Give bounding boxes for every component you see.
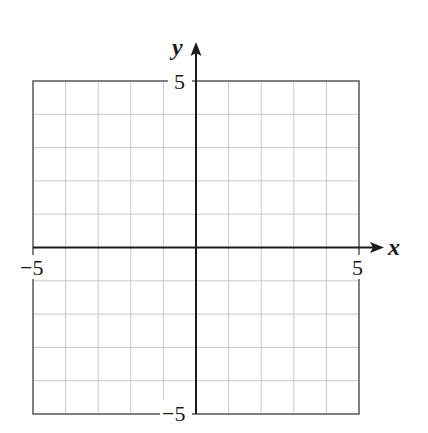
y-max-label: 5 [174, 69, 185, 94]
x-max-label: 5 [352, 255, 363, 280]
y-min-label: −5 [162, 401, 185, 426]
x-min-label: −5 [20, 255, 43, 280]
x-axis-label: x [387, 234, 400, 260]
coordinate-plane: 5 −5 −5 5 y x [0, 0, 428, 433]
y-axis-label: y [169, 34, 183, 60]
